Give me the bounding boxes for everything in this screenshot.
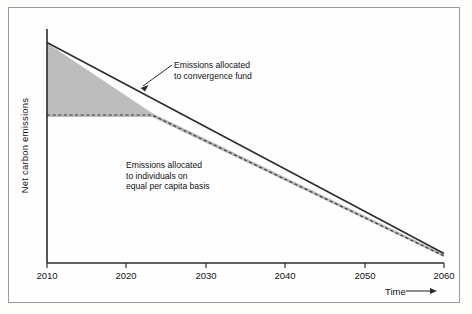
- chart-figure: Net carbon emissions Time 2010 2020 2030…: [0, 0, 472, 314]
- annotation-individual-allocation: Emissions allocated to individuals on eq…: [126, 160, 210, 192]
- x-tick-label-2010: 2010: [27, 270, 67, 281]
- annotation-convergence-line1: Emissions allocated: [174, 60, 252, 71]
- annotation-individual-line3: equal per capita basis: [126, 181, 210, 192]
- chart-plot-area: [0, 0, 472, 314]
- annotation-individual-line1: Emissions allocated: [126, 160, 210, 171]
- annotation-individual-line2: to individuals on: [126, 171, 210, 182]
- x-tick-label-2040: 2040: [265, 270, 305, 281]
- right-arrow-icon: [406, 288, 437, 294]
- series-line-per-capita: [47, 115, 444, 256]
- annotation-convergence-line2: to convergence fund: [174, 71, 252, 82]
- x-tick-label-2020: 2020: [106, 270, 146, 281]
- x-tick-label-2060: 2060: [424, 270, 464, 281]
- x-tick-label-2030: 2030: [186, 270, 226, 281]
- leader-arrow-icon: [141, 65, 173, 92]
- annotation-convergence-fund: Emissions allocated to convergence fund: [174, 60, 252, 81]
- x-axis-title: Time: [385, 286, 406, 297]
- y-axis-title: Net carbon emissions: [19, 91, 30, 201]
- x-tick-label-2050: 2050: [345, 270, 385, 281]
